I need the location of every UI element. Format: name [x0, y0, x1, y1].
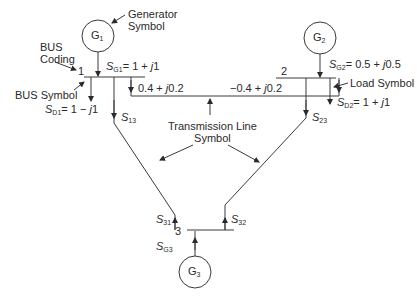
transmission-line-annotation: Transmission LineSymbol [168, 120, 257, 144]
tl-left-pointer [160, 145, 193, 160]
sg2-label: SG2= 0.5 + j0.5 [329, 58, 401, 74]
generator-2-label: G2 [313, 31, 325, 44]
s31-label: S31 [156, 213, 171, 229]
bus-2-number: 2 [281, 65, 287, 77]
s32-label: S32 [231, 213, 246, 229]
flow-2-1-label: −0.4 + j0.2 [230, 82, 282, 94]
line-2-3 [225, 78, 306, 230]
bus-coding-annotation: BUSCoding [40, 41, 75, 65]
generator-symbol-annotation: GeneratorSymbol [128, 8, 178, 32]
generator-1-label: G1 [91, 29, 103, 42]
s23-label: S23 [312, 111, 327, 127]
s13-label: S13 [121, 111, 136, 127]
bus-1-number: 1 [78, 65, 84, 77]
bus-symbol-annotation: BUS Symbol [15, 89, 77, 101]
sd1-label: SD1= 1 − j1 [45, 103, 98, 119]
sg3-label: SG3 [156, 240, 173, 256]
flow-1-2-label: 0.4 + j0.2 [138, 82, 184, 94]
generator-3-label: G3 [188, 265, 200, 278]
load-symbol-pointer [334, 83, 348, 87]
tl-right-pointer [228, 145, 259, 162]
generator-symbol-pointer [112, 15, 125, 23]
line-1-3 [114, 77, 175, 230]
bus-3-number: 3 [175, 225, 181, 237]
sd2-label: SD2= 1 + j1 [337, 96, 390, 112]
load-symbol-annotation: Load Symbol [350, 77, 414, 89]
sg1-label: SG1= 1 + j1 [106, 60, 159, 76]
